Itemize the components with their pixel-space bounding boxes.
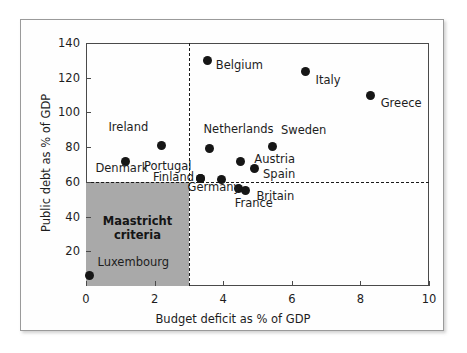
y-axis-tick <box>86 147 91 148</box>
data-point-label: Germany <box>187 180 240 194</box>
x-axis-tick <box>86 281 87 286</box>
data-point-label: Denmark <box>95 161 148 175</box>
y-axis-title: Public debt as % of GDP <box>39 94 53 232</box>
x-axis-tick <box>360 281 361 286</box>
data-point <box>366 91 375 100</box>
y-axis-tick-label: 120 <box>52 71 80 85</box>
x-axis-tick <box>429 281 430 286</box>
x-axis-tick-label: 8 <box>357 292 364 306</box>
maastricht-criteria-label: Maastrichtcriteria <box>77 214 197 243</box>
data-point-label: Sweden <box>281 123 326 137</box>
x-axis-tick-label: 0 <box>82 292 89 306</box>
data-point-label: Netherlands <box>203 122 273 136</box>
y-axis-tick <box>86 251 91 252</box>
data-point <box>205 144 214 153</box>
figure-frame: Maastrichtcriteria 204060801001201400246… <box>20 19 444 331</box>
y-axis-tick <box>86 43 91 44</box>
figure-page: Maastrichtcriteria 204060801001201400246… <box>0 0 467 353</box>
data-point <box>157 141 166 150</box>
x-axis-tick-label: 6 <box>288 292 295 306</box>
y-axis-tick-label: 100 <box>52 105 80 119</box>
y-axis-tick-label: 60 <box>52 175 80 189</box>
x-axis-title: Budget deficit as % of GDP <box>21 312 445 326</box>
x-axis-tick <box>292 281 293 286</box>
data-point-label: Belgium <box>216 58 263 72</box>
x-axis-tick-label: 10 <box>422 292 437 306</box>
y-axis-tick <box>86 182 91 183</box>
data-point-label: Britain <box>256 189 294 203</box>
x-axis-tick-label: 2 <box>151 292 158 306</box>
y-axis-tick <box>86 78 91 79</box>
y-axis-tick-label: 140 <box>52 36 80 50</box>
x-axis-tick <box>223 281 224 286</box>
y-axis-tick <box>86 112 91 113</box>
data-point-label: Italy <box>316 73 341 87</box>
data-point-label: Luxembourg <box>97 255 169 269</box>
y-axis-tick-label: 80 <box>52 140 80 154</box>
scatter-chart: Maastrichtcriteria 204060801001201400246… <box>21 20 445 332</box>
data-point-label: Ireland <box>108 120 148 134</box>
debt-threshold-line <box>86 182 429 183</box>
x-axis-tick-label: 4 <box>220 292 227 306</box>
data-point-label: Austria <box>254 152 295 166</box>
data-point <box>85 271 94 280</box>
data-point <box>236 157 245 166</box>
data-point <box>241 186 250 195</box>
y-axis-tick-label: 40 <box>52 210 80 224</box>
y-axis-tick-label: 20 <box>52 244 80 258</box>
x-axis-tick <box>155 281 156 286</box>
data-point-label: Greece <box>381 96 422 110</box>
data-point-label: Spain <box>263 167 295 181</box>
